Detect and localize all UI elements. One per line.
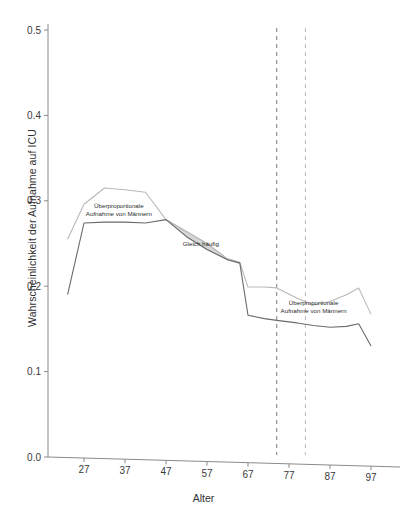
x-axis-title: Alter xyxy=(0,492,407,504)
x-tick-label: 67 xyxy=(242,469,254,480)
annotation-line: Aufnahme von Männern xyxy=(86,210,153,217)
y-tick-label: 0.5 xyxy=(27,25,41,36)
y-axis-title: Wahrscheinlichkeit der Aufnahme auf ICU xyxy=(26,98,38,358)
annotation-lower: ÜberproportionaleAufnahme von Männern xyxy=(281,299,348,314)
x-tick-label: 37 xyxy=(119,465,131,476)
y-axis-tickmarks xyxy=(44,30,48,457)
annotation-line: Überproportionale xyxy=(94,202,144,209)
annotation-line: Gleich häufig xyxy=(183,240,220,247)
chart-annotations: ÜberproportionaleAufnahme von MännernGle… xyxy=(86,202,347,314)
x-tick-label: 57 xyxy=(201,468,213,479)
x-tick-label: 27 xyxy=(78,464,90,475)
annotation-band: Gleich häufig xyxy=(183,240,220,247)
annotation-line: Überproportionale xyxy=(289,299,339,306)
x-axis-tick-labels: 2737475767778797 xyxy=(78,464,377,483)
y-tick-label: 0.0 xyxy=(27,452,41,463)
x-axis-spine xyxy=(48,457,400,467)
x-tick-label: 77 xyxy=(283,470,295,481)
series-line-frauen xyxy=(68,220,371,346)
annotation-upper: ÜberproportionaleAufnahme von Männern xyxy=(86,202,153,217)
x-tick-label: 47 xyxy=(160,466,172,477)
annotation-line: Aufnahme von Männern xyxy=(281,307,348,314)
vertical-reference-lines xyxy=(277,28,306,455)
y-tick-label: 0.1 xyxy=(27,366,41,377)
chart-figure: 0.00.10.20.30.40.5 2737475767778797 Über… xyxy=(0,0,407,519)
x-tick-label: 97 xyxy=(365,472,377,483)
line-chart-canvas: 0.00.10.20.30.40.5 2737475767778797 Über… xyxy=(0,0,407,519)
x-tick-label: 87 xyxy=(324,471,336,482)
